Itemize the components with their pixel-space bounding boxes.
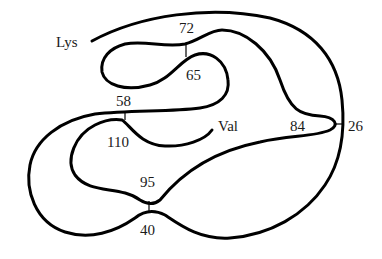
label-65: 65 (186, 67, 201, 83)
label-26: 26 (348, 118, 364, 134)
label-58: 58 (116, 93, 131, 109)
label-val: Val (218, 118, 238, 134)
label-110: 110 (107, 134, 129, 150)
label-95: 95 (140, 174, 155, 190)
chain-drawing: Lys 72 65 58 110 Val 84 26 95 40 (0, 0, 382, 259)
protein-diagram: Lys 72 65 58 110 Val 84 26 95 40 (0, 0, 382, 259)
label-72: 72 (179, 20, 194, 36)
label-lys: Lys (56, 34, 78, 50)
label-84: 84 (290, 118, 306, 134)
label-40: 40 (140, 222, 155, 238)
